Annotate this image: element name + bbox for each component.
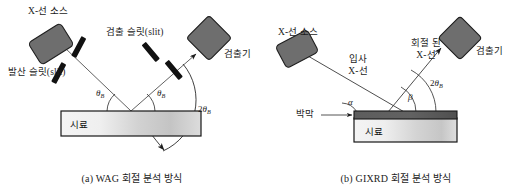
theta-right-arc (147, 94, 155, 111)
panel-gixrd-diagram: X-선 소스 입사 X-선 회절 된 X-선 검출기 박막 시료 α β 2θB… (264, 0, 528, 194)
wag-two-theta-subscript: B (207, 108, 211, 115)
gixrd-source-label: X-선 소스 (278, 27, 318, 38)
wag-detector-label: 검출기 (224, 49, 251, 60)
diffracted-beam-line (131, 54, 196, 111)
gixrd-detector-label: 검출기 (476, 46, 503, 57)
wag-theta-right-subscript: B (162, 92, 166, 99)
gixrd-two-theta-label: 2θB (430, 78, 443, 88)
wag-theta-right-symbol: θ (157, 88, 161, 98)
wag-theta-left-subscript: B (101, 92, 105, 99)
wag-theta-left-symbol: θ (96, 88, 100, 98)
gixrd-two-theta-subscript: B (439, 82, 443, 89)
gixrd-incident-beam-label-line1: 입사 (341, 54, 375, 65)
gixrd-beta-label: β (408, 92, 412, 102)
wag-theta-left-label: θB (96, 88, 104, 98)
panel-wag-diagram: X-선 소스 발산 슬릿(slit) 검출 슬릿(slit) 검출기 시료 θB… (0, 0, 264, 194)
gixrd-diffracted-beam-label-line1: 회절 된 (402, 38, 450, 49)
theta-left-arc (107, 94, 115, 111)
two-theta-arc (411, 70, 436, 112)
xrd-geometry-figure: X-선 소스 발산 슬릿(slit) 검출 슬릿(slit) 검출기 시료 θB… (0, 0, 528, 194)
wag-theta-right-label: θB (157, 88, 165, 98)
gixrd-thin-film-label: 박막 (296, 109, 314, 120)
gixrd-sample-label: 시료 (365, 124, 383, 138)
xray-source-box (28, 23, 74, 65)
wag-divergence-slit-label: 발산 슬릿(slit) (8, 67, 65, 78)
wag-detector-slit-label: 검출 슬릿(slit) (106, 27, 163, 38)
gixrd-incident-beam-label-line2: X-선 (341, 66, 375, 77)
thin-film-layer (354, 111, 457, 119)
wag-caption: (a) WAG 회절 분석 방식 (0, 170, 264, 185)
wag-sample-label: 시료 (70, 117, 88, 131)
wag-two-theta-label: 2θB (198, 104, 211, 114)
gixrd-caption: (b) GIXRD 회절 분석 방식 (264, 170, 528, 185)
gixrd-alpha-label: α (348, 97, 353, 107)
wag-source-label: X-선 소스 (28, 6, 68, 17)
gixrd-diffracted-beam-label-line2: X-선 (402, 50, 450, 61)
detector-slit-bars (142, 42, 183, 80)
